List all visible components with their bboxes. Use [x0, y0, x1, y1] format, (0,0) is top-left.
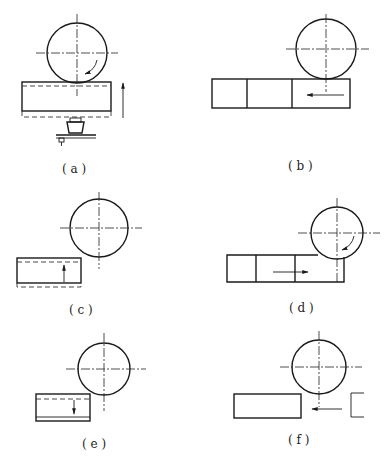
- panel-d: ( d ): [227, 198, 380, 315]
- workpiece: [234, 394, 301, 418]
- incoming-workpiece-bracket: [351, 393, 364, 417]
- rotation-arrow-icon: [85, 60, 97, 74]
- panel-a: ( a ): [22, 14, 123, 176]
- rotation-arrow-icon: [342, 236, 354, 250]
- panel-label-f: ( f ): [288, 433, 309, 447]
- panel-b: ( b ): [212, 14, 369, 173]
- workpiece-row: [212, 79, 350, 108]
- workpiece-row: [227, 255, 344, 282]
- panel-e: ( e ): [36, 333, 146, 451]
- figure-canvas: ( a ) ( b ) ( c ) ( d ): [0, 0, 389, 464]
- stock-line-bottom: [22, 111, 111, 117]
- panel-label-a: ( a ): [62, 162, 86, 176]
- panel-label-c: ( c ): [69, 303, 93, 317]
- panel-c: ( c ): [17, 192, 142, 317]
- panel-label-e: ( e ): [82, 437, 106, 451]
- panel-label-d: ( d ): [289, 301, 314, 315]
- panel-label-b: ( b ): [288, 159, 313, 173]
- fixture-clamp: [56, 118, 96, 146]
- panel-f: ( f ): [234, 331, 364, 447]
